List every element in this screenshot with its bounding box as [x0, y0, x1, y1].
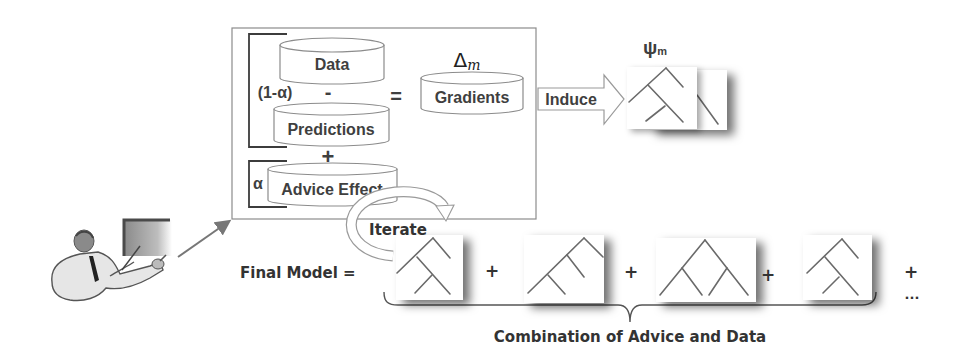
data-cylinder: Data: [280, 38, 384, 84]
boosting-with-advice-diagram: Data (1-α) - = Predictions + α Advice Ef…: [0, 0, 966, 361]
diagram-svg: Data (1-α) - = Predictions + α Advice Ef…: [0, 0, 966, 361]
presenter-clipart-icon: [52, 220, 172, 301]
one-minus-alpha-weight: (1-α): [258, 84, 293, 101]
presentation-board: [124, 220, 172, 256]
delta-m-symbol: Δm: [454, 48, 481, 73]
sum-plus-1: +: [485, 261, 499, 281]
alpha-weight: α: [253, 175, 263, 192]
advice-arrow: [178, 222, 228, 257]
predictions-cylinder: Predictions: [274, 103, 389, 146]
minus-operator: -: [325, 81, 332, 103]
gradients-label: Gradients: [435, 89, 510, 106]
sum-plus-3: +: [761, 265, 775, 285]
gradients-cylinder: Gradients: [421, 72, 523, 114]
final-model-tree-3: [656, 238, 756, 302]
psi-m-symbol: ψm: [643, 37, 667, 58]
data-label: Data: [315, 56, 350, 73]
induce-arrow: Induce: [538, 75, 624, 124]
final-model-tree-4: [803, 235, 872, 300]
equals-operator: =: [390, 85, 402, 107]
combination-label: Combination of Advice and Data: [494, 328, 766, 346]
psi-m-tree-stack: [627, 67, 727, 130]
final-model-tree-2: [524, 235, 604, 303]
ellipsis: ...: [905, 287, 920, 302]
sum-plus-2: +: [624, 262, 638, 282]
final-model-label: Final Model =: [240, 264, 356, 282]
predictions-label: Predictions: [287, 121, 374, 138]
sum-plus-4: +: [904, 262, 918, 282]
induce-label: Induce: [545, 91, 597, 108]
final-model-tree-1: [396, 235, 463, 300]
